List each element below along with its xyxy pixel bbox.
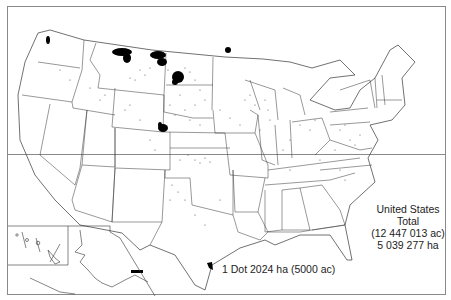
dot-scatter [59, 67, 360, 225]
inset-alaska-hawaii [8, 226, 155, 296]
dot-legend: 1 Dot 2024 ha (5000 ac) [222, 263, 335, 275]
total-acres: (12 447 013 ac) [358, 227, 451, 239]
us-map [0, 0, 451, 300]
total-hectares: 5 039 277 ha [358, 239, 451, 251]
map-border [8, 7, 446, 155]
us-total-label: United States Total (12 447 013 ac) 5 03… [358, 203, 451, 251]
map-border-lower [8, 7, 446, 155]
map-container: United States Total (12 447 013 ac) 5 03… [0, 0, 451, 300]
total-title: United States [358, 203, 451, 215]
state-boundaries [22, 40, 402, 245]
total-subtitle: Total [358, 215, 451, 227]
us-outline [18, 30, 415, 290]
